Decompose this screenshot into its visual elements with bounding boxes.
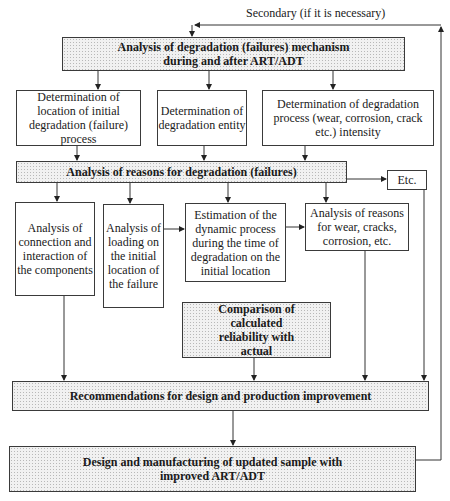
node-updated-design: Design and manufacturing of updated samp… — [9, 446, 416, 492]
node-label: Determination of location of initial deg… — [17, 90, 140, 146]
node-reliability-comparison: Comparison of calculated reliability wit… — [182, 302, 331, 358]
node-etc: Etc. — [387, 170, 427, 190]
node-label: Design and manufacturing of updated samp… — [80, 455, 345, 483]
node-label: Analysis of reasons for degradation (fai… — [66, 165, 296, 179]
node-process-intensity: Determination of degradation process (we… — [262, 90, 434, 146]
node-loading-analysis: Analysis of loading on the initial locat… — [103, 204, 164, 308]
node-degradation-reasons: Analysis of reasons for degradation (fai… — [16, 161, 347, 183]
node-label: Determination of degradation process (we… — [269, 97, 427, 139]
node-label: Analysis of connection and interaction o… — [16, 221, 94, 277]
node-label: Recommendations for design and productio… — [70, 389, 372, 403]
node-label: Estimation of the dynamic process during… — [189, 208, 282, 278]
node-component-connection: Analysis of connection and interaction o… — [15, 202, 95, 296]
node-wear-reasons: Analysis of reasons for wear, cracks, co… — [305, 203, 409, 251]
node-label: Analysis of reasons for wear, cracks, co… — [306, 206, 408, 248]
node-degradation-mechanism: Analysis of degradation (failures) mecha… — [62, 37, 405, 71]
feedback-label: Secondary (if it is necessary) — [246, 6, 385, 21]
node-label: Analysis of loading on the initial locat… — [104, 221, 163, 291]
node-recommendations: Recommendations for design and productio… — [12, 381, 429, 411]
node-label: Comparison of calculated reliability wit… — [211, 302, 302, 358]
node-label: Etc. — [398, 173, 417, 187]
node-dynamic-process: Estimation of the dynamic process during… — [185, 203, 286, 282]
node-label: Determination of degradation entity — [158, 104, 246, 132]
node-failure-location: Determination of location of initial deg… — [16, 90, 141, 146]
node-label: Analysis of degradation (failures) mecha… — [103, 40, 364, 68]
node-degradation-entity: Determination of degradation entity — [157, 90, 247, 146]
